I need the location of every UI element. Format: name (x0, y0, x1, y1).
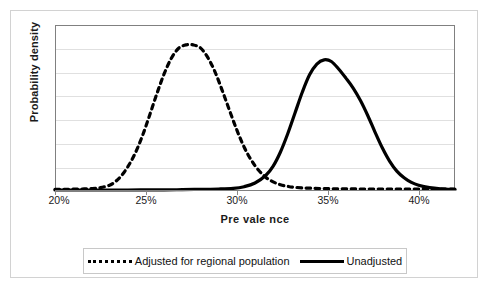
y-axis-title: Probability density (28, 0, 40, 152)
legend-item-adjusted: Adjusted for regional population (88, 255, 290, 267)
dashed-line-swatch-icon (88, 260, 132, 263)
x-tick-label-35: 35% (317, 194, 338, 206)
x-tick-label-25: 25% (135, 194, 156, 206)
series-line-unadjusted (55, 60, 455, 190)
chart-stage: Probability density 20% 25% 30% 35% 40% … (0, 0, 490, 290)
x-tick-label-30: 30% (226, 194, 247, 206)
legend-label-adjusted: Adjusted for regional population (135, 255, 290, 267)
x-tick-label-20: 20% (48, 194, 69, 206)
x-axis-title: Pre vale nce (55, 213, 455, 225)
solid-line-swatch-icon (300, 260, 344, 263)
legend-item-unadjusted: Unadjusted (290, 255, 403, 267)
x-axis-line (55, 190, 456, 191)
chart-legend: Adjusted for regional population Unadjus… (83, 248, 407, 274)
chart-screenshot: Probability density 20% 25% 30% 35% 40% … (0, 0, 490, 290)
legend-label-unadjusted: Unadjusted (347, 255, 403, 267)
x-tick-label-40: 40% (408, 194, 429, 206)
series-layer (55, 25, 455, 191)
